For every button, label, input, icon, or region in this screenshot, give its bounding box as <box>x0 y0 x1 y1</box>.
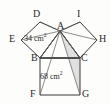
area-label-left-square: 34 cm2 <box>24 35 47 43</box>
area-exponent-left: 2 <box>44 32 47 38</box>
vertex-label-d: D <box>33 9 40 19</box>
area-unit-bottom: cm <box>50 72 60 81</box>
vertex-label-c: C <box>81 53 88 63</box>
vertex-label-e: E <box>9 34 15 44</box>
area-exponent-bottom: 2 <box>60 70 63 76</box>
vertex-label-g: G <box>82 89 89 99</box>
area-label-bottom-square: 68 cm2 <box>40 73 63 81</box>
area-value-bottom: 68 <box>40 72 48 81</box>
vertex-label-f: F <box>30 89 36 99</box>
geometry-figure: D I E H A B C F G 34 cm2 68 cm2 <box>0 0 111 104</box>
geometry-diagram <box>0 0 111 104</box>
area-value-left: 34 <box>24 34 32 43</box>
vertex-label-i: I <box>77 9 80 19</box>
area-unit-left: cm <box>34 34 44 43</box>
vertex-label-a: A <box>57 21 64 31</box>
vertex-label-h: H <box>99 34 106 44</box>
vertex-label-b: B <box>31 53 38 63</box>
